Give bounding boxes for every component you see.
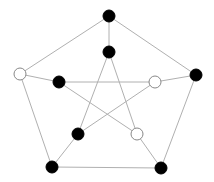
graph-edge (109, 52, 137, 134)
graph-edge (20, 74, 52, 167)
graph-edges (20, 16, 196, 168)
graph-node-black (103, 10, 115, 22)
graph-edge (59, 82, 137, 134)
graph-node-black (190, 69, 202, 81)
graph-node-black (46, 161, 58, 173)
graph-edge (161, 75, 196, 168)
graph-node-white (149, 76, 161, 88)
graph-node-black (103, 46, 115, 58)
graph-edge (78, 82, 155, 134)
graph-node-white (131, 128, 143, 140)
graph-node-white (14, 68, 26, 80)
graph-edge (109, 16, 196, 75)
graph-node-black (155, 162, 167, 174)
graph-edge (20, 16, 109, 74)
graph-node-black (53, 76, 65, 88)
petersen-graph (0, 0, 214, 182)
graph-node-black (72, 128, 84, 140)
graph-edge (52, 167, 161, 168)
graph-edge (78, 52, 109, 134)
graph-nodes (14, 10, 202, 174)
